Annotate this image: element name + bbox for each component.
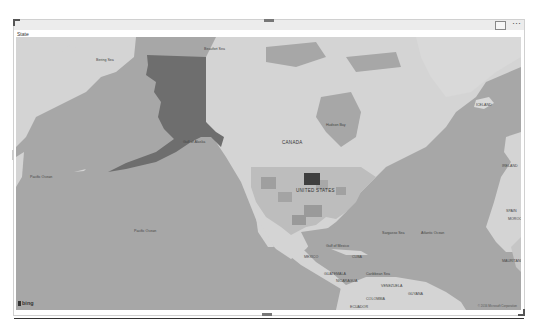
label-canada: CANADA [282, 140, 303, 145]
bing-icon [18, 301, 21, 306]
map-geography [16, 37, 521, 310]
label-gulf-of-alaska: Gulf of Alaska [183, 140, 205, 144]
canvas-divider [14, 318, 524, 319]
label-atlantic-ocean: Atlantic Ocean [421, 231, 444, 235]
label-beaufort-sea: Beaufort Sea [204, 47, 225, 51]
focus-mode-icon[interactable] [495, 21, 506, 30]
resize-corner-top-left[interactable] [13, 19, 20, 26]
label-guyana: GUYANA [408, 292, 423, 296]
label-bering-sea: Bering Sea [96, 58, 114, 62]
label-united-states: UNITED STATES [296, 188, 335, 193]
bing-logo: bing [18, 300, 34, 306]
label-gulf-of-mexico: Gulf of Mexico [326, 244, 349, 248]
label-colombia: COLOMBIA [366, 297, 385, 301]
more-options-icon[interactable]: ⋯ [512, 20, 521, 29]
map-canvas[interactable]: Bering Sea Beaufort Sea Gulf of Alaska C… [16, 37, 521, 310]
label-spain: SPAIN [506, 209, 517, 213]
label-morocco: MOROCCO [508, 217, 521, 221]
label-mexico: MEXICO [304, 255, 318, 259]
label-nicaragua: NICARAGUA [336, 279, 357, 283]
resize-handle-left[interactable] [12, 150, 14, 160]
label-ireland: IRELAND [502, 164, 518, 168]
label-venezuela: VENEZUELA [381, 284, 402, 288]
label-hudson-bay: Hudson Bay [326, 123, 346, 127]
map-copyright[interactable]: © 2016 Microsoft Corporation [478, 304, 517, 308]
resize-handle-bottom[interactable] [262, 313, 272, 316]
label-ecuador: ECUADOR [350, 305, 368, 309]
label-guatemala: GUATEMALA [324, 272, 346, 276]
map-visual[interactable]: ⋯ State [13, 19, 525, 316]
resize-handle-top[interactable] [264, 19, 274, 22]
label-cuba: CUBA [352, 255, 362, 259]
label-mauritania: MAURITANIA [502, 259, 521, 263]
label-sargasso-sea: Sargasso Sea [382, 231, 405, 235]
label-iceland: ICELAND [476, 103, 492, 107]
label-pacific-ocean: Pacific Ocean [134, 229, 156, 233]
label-caribbean-sea: Caribbean Sea [366, 272, 390, 276]
resize-corner-bottom-right[interactable] [518, 309, 525, 316]
label-pacific-ocean-west: Pacific Ocean [30, 175, 52, 179]
